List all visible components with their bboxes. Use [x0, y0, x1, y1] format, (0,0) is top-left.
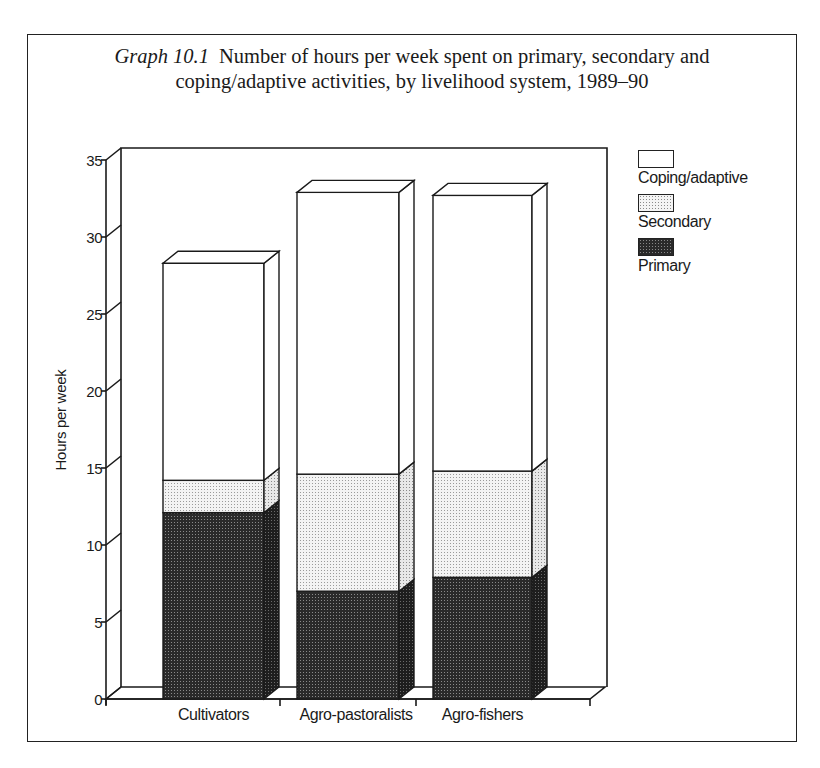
y-tick-label: 35 — [86, 152, 102, 169]
bars-group — [163, 180, 547, 699]
bar-segment-front-secondary — [433, 471, 532, 577]
y-tick-depth — [106, 379, 121, 391]
bar-agro-fishers — [433, 183, 547, 699]
x-category-label: Agro-fishers — [442, 706, 523, 724]
y-tick-depth — [106, 687, 121, 699]
bar-segment-side-coping-adaptive — [399, 180, 414, 474]
bar-segment-front-secondary — [163, 480, 264, 512]
x-category-label: Cultivators — [178, 706, 249, 724]
bar-segment-side-secondary — [532, 459, 547, 577]
legend-item-coping: Coping/adaptive — [638, 150, 748, 188]
y-tick-depth — [106, 456, 121, 468]
y-tick-label: 20 — [86, 383, 102, 400]
stacked-3d-bar-chart — [0, 0, 820, 768]
legend-label-coping: Coping/adaptive — [638, 168, 748, 188]
bar-segment-front-coping-adaptive — [297, 192, 399, 474]
bar-top-face — [297, 180, 414, 192]
bar-segment-front-primary — [297, 591, 399, 699]
bar-segment-side-coping-adaptive — [264, 251, 279, 480]
y-tick-label: 15 — [86, 460, 102, 477]
x-category-label: Agro-pastoralists — [299, 706, 412, 724]
y-tick-label: 25 — [86, 306, 102, 323]
bar-segment-side-coping-adaptive — [532, 183, 547, 471]
y-tick-depth — [106, 533, 121, 545]
y-axis-label: Hours per week — [52, 370, 69, 471]
bar-segment-side-primary — [264, 501, 279, 699]
y-tick-depth — [106, 302, 121, 314]
bar-segment-front-coping-adaptive — [163, 263, 264, 480]
legend-swatch-coping — [638, 150, 674, 168]
bar-agro-pastoralists — [297, 180, 414, 699]
bar-segment-front-primary — [163, 513, 264, 699]
bar-segment-side-secondary — [399, 462, 414, 591]
y-tick-label: 30 — [86, 229, 102, 246]
bar-segment-side-primary — [532, 565, 547, 699]
legend-label-primary: Primary — [638, 256, 748, 276]
legend-item-secondary: Secondary — [638, 194, 748, 232]
bar-cultivators — [163, 251, 279, 699]
bar-top-face — [433, 183, 547, 195]
bar-segment-front-primary — [433, 577, 532, 699]
y-tick-depth — [106, 148, 121, 160]
y-tick-depth — [106, 610, 121, 622]
y-tick-depth — [106, 225, 121, 237]
legend-swatch-primary — [638, 238, 674, 256]
bar-segment-front-secondary — [297, 474, 399, 591]
legend-label-secondary: Secondary — [638, 212, 748, 232]
y-tick-label: 0 — [94, 691, 102, 708]
bar-segment-side-primary — [399, 579, 414, 699]
bar-segment-front-coping-adaptive — [433, 195, 532, 471]
y-tick-label: 10 — [86, 537, 102, 554]
bar-top-face — [163, 251, 279, 263]
y-tick-label: 5 — [94, 614, 102, 631]
legend-swatch-secondary — [638, 194, 674, 212]
legend: Coping/adaptive Secondary Primary — [638, 150, 748, 282]
legend-item-primary: Primary — [638, 238, 748, 276]
